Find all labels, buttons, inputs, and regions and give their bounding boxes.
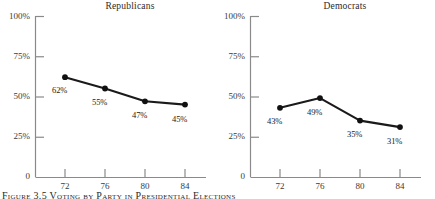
data-label-47-republicans: 47% <box>132 110 147 120</box>
plot-area-democrats <box>217 0 435 199</box>
plot-area-republicans <box>0 0 218 199</box>
y-tick-label-75-democrats: 75% <box>213 51 245 61</box>
data-label-62-republicans: 62% <box>52 85 67 95</box>
y-tick-label-0-republicans: 0 <box>0 171 30 181</box>
y-ticks-democrats <box>251 17 260 138</box>
y-tick-label-0-democrats: 0 <box>213 171 245 181</box>
figure-caption: Figure 3.5 Voting by Party in Presidenti… <box>2 190 435 199</box>
data-label-45-republicans: 45% <box>172 114 187 124</box>
data-label-55-republicans: 55% <box>92 97 107 107</box>
y-tick-label-75-republicans: 75% <box>0 51 30 61</box>
data-label-31-democrats: 31% <box>387 136 402 146</box>
chart-panel-republicans: Republicans <box>0 0 218 199</box>
data-line-democrats <box>280 98 400 127</box>
figure-container: Republicans <box>0 0 435 199</box>
data-label-43-democrats: 43% <box>267 116 282 126</box>
y-tick-label-50-republicans: 50% <box>0 91 30 101</box>
x-ticks-democrats <box>280 169 400 178</box>
y-tick-label-25-democrats: 25% <box>213 131 245 141</box>
y-ticks-republicans <box>36 17 45 138</box>
y-tick-label-50-democrats: 50% <box>213 91 245 101</box>
y-tick-label-100-republicans: 100% <box>0 11 30 21</box>
y-tick-label-100-democrats: 100% <box>213 11 245 21</box>
x-ticks-republicans <box>65 169 185 178</box>
y-tick-label-25-republicans: 25% <box>0 131 30 141</box>
data-label-49-democrats: 49% <box>307 107 322 117</box>
chart-panel-democrats: Democrats <box>217 0 435 199</box>
data-line-republicans <box>65 77 185 104</box>
data-label-35-democrats: 35% <box>347 129 362 139</box>
